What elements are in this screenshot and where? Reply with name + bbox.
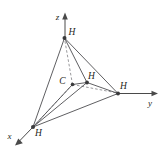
tetrahedral-methane-diagram: HHHHC zyx [0, 0, 163, 155]
hydrogen-right-label: H [119, 81, 128, 91]
figure-background [0, 0, 163, 155]
carbon-center-vertex [71, 83, 75, 87]
hydrogen-top-vertex [63, 36, 67, 40]
z-axis-label: z [55, 12, 60, 22]
hydrogen-right-vertex [116, 92, 120, 96]
x-axis-label: x [7, 131, 12, 141]
molecule-figure: HHHHC zyx [0, 0, 163, 155]
hydrogen-middle-label: H [87, 71, 96, 81]
carbon-center-label: C [59, 76, 66, 86]
y-axis-label: y [147, 98, 152, 108]
hydrogen-front-left-label: H [34, 128, 43, 138]
hydrogen-top-label: H [68, 27, 77, 37]
